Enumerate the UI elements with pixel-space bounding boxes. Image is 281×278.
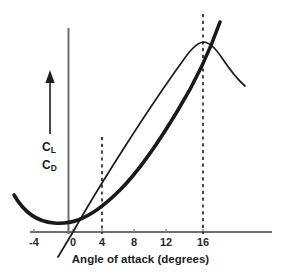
x-tick-label-16: 16 xyxy=(192,236,214,248)
x-tick-label-8: 8 xyxy=(123,236,145,248)
y-axis-arrow-icon xyxy=(45,70,54,134)
cd-base: C xyxy=(42,158,51,172)
x-axis-title: Angle of attack (degrees) xyxy=(0,253,281,265)
x-tick-label--4: -4 xyxy=(22,236,46,248)
y-axis-label-cd: CD xyxy=(42,158,57,172)
chart-figure: -4 0 4 8 12 16 CL CD Angle of attack (de… xyxy=(0,0,281,278)
y-axis-label-cl: CL xyxy=(42,140,56,154)
x-tick-label-4: 4 xyxy=(91,236,113,248)
cl-base: C xyxy=(42,140,51,154)
cd-subscript: D xyxy=(51,163,57,173)
x-tick-label-0: 0 xyxy=(62,236,84,248)
cl-subscript: L xyxy=(51,145,56,155)
x-tick-label-12: 12 xyxy=(155,236,177,248)
